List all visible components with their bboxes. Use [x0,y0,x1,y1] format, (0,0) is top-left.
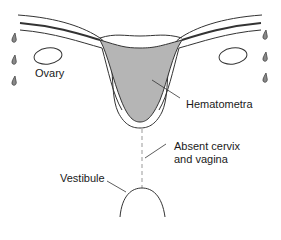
label-ovary: Ovary [35,67,64,80]
fimbria-drops-right [263,30,267,82]
ovary-right [218,46,248,66]
vestibule-leader [107,181,126,192]
label-absent-cervix: Absent cervix and vagina [174,140,240,166]
vestibule-arc [120,188,165,217]
label-absent-line2: and vagina [174,153,240,166]
fimbria-drops-left [12,33,16,85]
label-absent-line1: Absent cervix [174,140,240,153]
label-hematometra: Hematometra [186,98,253,111]
ovary-left [33,46,63,66]
label-vestibule: Vestibule [60,172,105,185]
absent-leader [145,144,166,158]
